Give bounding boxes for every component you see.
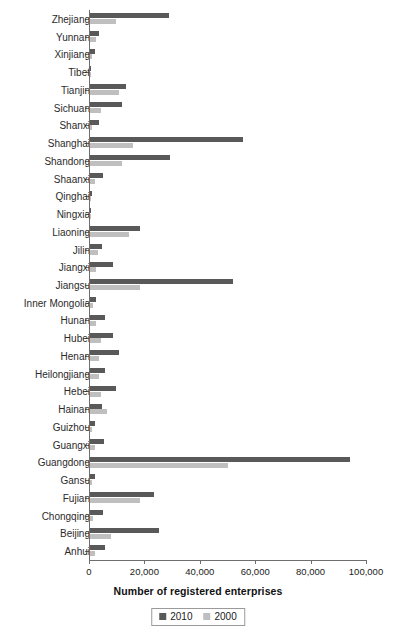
- category-label: Henan: [61, 350, 90, 361]
- category-row: Anhui: [0, 542, 396, 560]
- category-row: Jilin: [0, 241, 396, 259]
- category-label: Sichuan: [54, 102, 90, 113]
- category-label: Gansu: [61, 475, 90, 486]
- bar-2000: [90, 232, 129, 237]
- category-label: Shaanxi: [54, 173, 90, 184]
- bar-2000: [90, 125, 92, 130]
- bar-2010: [90, 528, 159, 533]
- bar-2010: [90, 84, 126, 89]
- category-row: Qinghai: [0, 187, 396, 205]
- bar-2010: [90, 545, 105, 550]
- category-label: Xinjiang: [54, 49, 90, 60]
- bar-2000: [90, 108, 101, 113]
- category-label: Jilin: [73, 244, 90, 255]
- x-axis-tick: [144, 560, 145, 564]
- category-label: Inner Mongolia: [24, 297, 90, 308]
- bar-2000: [90, 179, 95, 184]
- category-label: Guizhou: [53, 421, 90, 432]
- category-row: Shandong: [0, 152, 396, 170]
- category-row: Guangxi: [0, 436, 396, 454]
- category-row: Yunnan: [0, 28, 396, 46]
- bar-2000: [90, 19, 116, 24]
- bar-2010: [90, 297, 96, 302]
- category-row: Zhejiang: [0, 10, 396, 28]
- bar-2000: [90, 321, 96, 326]
- category-row: Liaoning: [0, 223, 396, 241]
- legend-label-2010: 2010: [170, 611, 192, 622]
- bar-2010: [90, 244, 102, 249]
- category-row: Hubei: [0, 329, 396, 347]
- bar-2010: [90, 421, 95, 426]
- x-axis-tick: [311, 560, 312, 564]
- category-label: Beijing: [60, 528, 90, 539]
- category-row: Shanxi: [0, 116, 396, 134]
- category-row: Jiangxi: [0, 258, 396, 276]
- bar-2000: [90, 534, 111, 539]
- x-axis-line: [89, 560, 366, 561]
- bar-2000: [90, 250, 98, 255]
- bar-2000: [90, 338, 101, 343]
- x-axis-tick-label: 40,000: [185, 566, 214, 577]
- category-row: Beijing: [0, 525, 396, 543]
- category-label: Liaoning: [52, 226, 90, 237]
- category-row: Shanghai: [0, 134, 396, 152]
- category-row: Inner Mongolia: [0, 294, 396, 312]
- category-label: Hunan: [61, 315, 90, 326]
- bar-2010: [90, 31, 99, 36]
- category-label: Yunnan: [56, 31, 90, 42]
- bar-2010: [90, 66, 91, 71]
- bar-2000: [90, 303, 93, 308]
- bar-2010: [90, 155, 170, 160]
- category-row: Ningxia: [0, 205, 396, 223]
- bar-chart: ZhejiangYunnanXinjiangTibetTianjinSichua…: [0, 0, 396, 640]
- legend-label-2000: 2000: [215, 611, 237, 622]
- category-label: Hainan: [58, 404, 90, 415]
- x-axis-tick-label: 60,000: [241, 566, 270, 577]
- category-label: Heilongjiang: [35, 368, 90, 379]
- category-row: Shaanxi: [0, 170, 396, 188]
- bar-2000: [90, 445, 95, 450]
- bar-2000: [90, 196, 91, 201]
- bar-2000: [90, 214, 91, 219]
- bar-2010: [90, 386, 116, 391]
- category-row: Heilongjiang: [0, 365, 396, 383]
- category-label: Fujian: [63, 492, 90, 503]
- category-label: Hebei: [64, 386, 90, 397]
- category-row: Fujian: [0, 489, 396, 507]
- bar-2010: [90, 137, 243, 142]
- bar-2010: [90, 350, 119, 355]
- legend-item-2000: 2000: [204, 611, 237, 622]
- bar-2010: [90, 13, 169, 18]
- category-label: Tibet: [68, 67, 90, 78]
- plot-area: ZhejiangYunnanXinjiangTibetTianjinSichua…: [0, 0, 396, 566]
- bar-2010: [90, 226, 140, 231]
- bar-2010: [90, 333, 113, 338]
- category-row: Tibet: [0, 63, 396, 81]
- bar-2000: [90, 267, 96, 272]
- bar-2000: [90, 516, 93, 521]
- x-axis-tick: [255, 560, 256, 564]
- bar-2010: [90, 368, 105, 373]
- bar-2000: [90, 143, 133, 148]
- bar-2000: [90, 285, 140, 290]
- legend-item-2010: 2010: [159, 611, 192, 622]
- category-label: Shanxi: [59, 120, 90, 131]
- category-row: Guangdong: [0, 454, 396, 472]
- chart-legend: 2010 2000: [151, 608, 245, 626]
- category-label: Zhejiang: [52, 13, 90, 24]
- category-label: Shanghai: [48, 138, 90, 149]
- bar-2000: [90, 37, 96, 42]
- bar-2000: [90, 54, 92, 59]
- bar-2010: [90, 492, 154, 497]
- bar-2000: [90, 374, 99, 379]
- y-axis-line: [89, 10, 90, 560]
- bar-2000: [90, 72, 91, 77]
- x-axis-tick-label: 80,000: [296, 566, 325, 577]
- x-axis-tick-label: 100,000: [349, 566, 383, 577]
- category-label: Qinghai: [56, 191, 90, 202]
- bar-2000: [90, 392, 101, 397]
- bar-2010: [90, 510, 103, 515]
- bar-2010: [90, 315, 105, 320]
- category-row: Xinjiang: [0, 45, 396, 63]
- x-axis-title: Number of registered enterprises: [0, 585, 396, 597]
